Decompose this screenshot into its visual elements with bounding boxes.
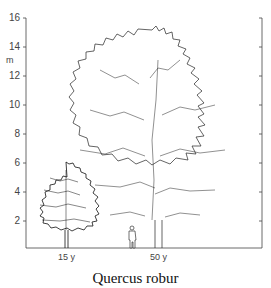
tree-age-label-50: 50 y: [150, 252, 167, 262]
y-tick-4: 4: [0, 187, 20, 197]
y-axis-unit: m: [6, 55, 14, 65]
y-tick-8: 8: [0, 129, 20, 139]
y-tick-2: 2: [0, 216, 20, 226]
tree-15-years: [40, 162, 99, 248]
y-tick-10: 10: [0, 100, 20, 110]
y-tick-16: 16: [0, 13, 20, 23]
y-tick-14: 14: [0, 42, 20, 52]
species-caption: Quercus robur: [0, 268, 271, 288]
y-tick-12: 12: [0, 71, 20, 81]
tree-age-label-15: 15 y: [58, 252, 75, 262]
human-figure: [129, 226, 136, 248]
y-tick-6: 6: [0, 158, 20, 168]
